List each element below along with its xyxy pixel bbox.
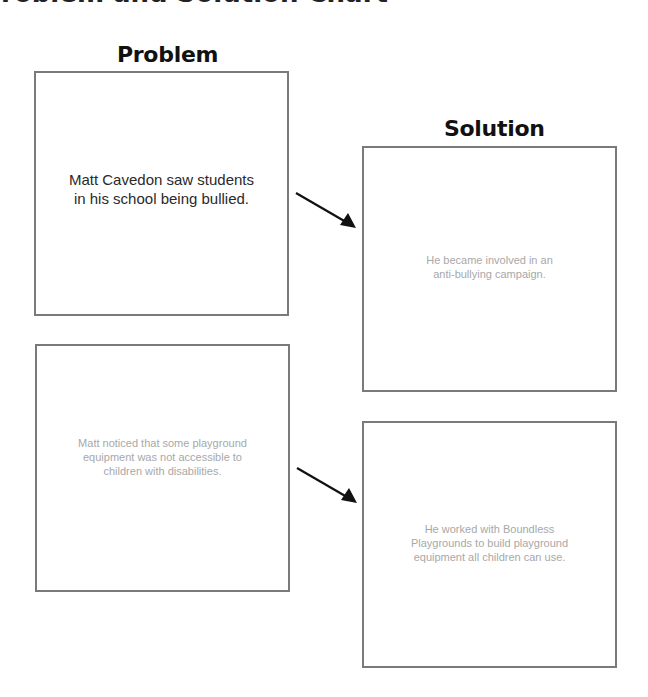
arrow-right-down-icon (291, 460, 363, 510)
solution-text-1: He became involved in an anti-bullying c… (406, 253, 573, 281)
solution-text-2: He worked with Boundless Playgrounds to … (391, 522, 588, 564)
solution-heading: Solution (444, 116, 545, 141)
page-title: Problem and Solution Chart (0, 0, 388, 8)
solution-box-2[interactable]: He worked with Boundless Playgrounds to … (362, 421, 617, 668)
arrow-right-down-icon (290, 185, 362, 235)
problem-text-1: Matt Cavedon saw students in his school … (49, 170, 274, 208)
problem-box-1[interactable]: Matt Cavedon saw students in his school … (34, 71, 289, 316)
problem-text-2: Matt noticed that some playground equipm… (58, 436, 267, 478)
problem-heading: Problem (117, 42, 218, 67)
solution-box-1[interactable]: He became involved in an anti-bullying c… (362, 146, 617, 392)
problem-box-2[interactable]: Matt noticed that some playground equipm… (35, 344, 290, 592)
